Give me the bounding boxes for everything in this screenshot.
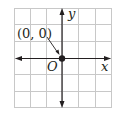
origin-label: O	[47, 59, 58, 74]
y-axis-label: y	[67, 6, 76, 21]
origin-coordinate-label: (0, 0)	[17, 26, 52, 41]
y-axis-up-arrow-icon	[60, 8, 65, 15]
coordinate-plane: (0, 0) O x y	[0, 0, 120, 113]
x-axis-left-arrow-icon	[15, 56, 22, 61]
origin-point	[59, 55, 65, 61]
x-axis-label: x	[101, 59, 109, 74]
y-axis-down-arrow-icon	[60, 101, 65, 108]
